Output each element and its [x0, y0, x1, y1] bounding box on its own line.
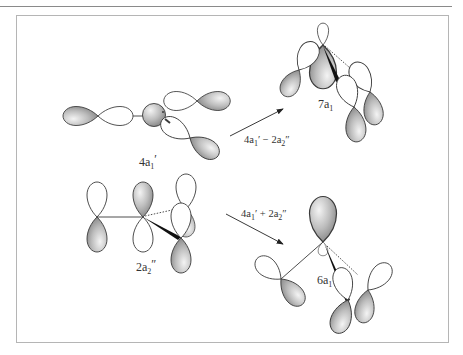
structure-7a1	[276, 23, 385, 143]
structure-4a1-prime	[63, 92, 230, 164]
label-6a1: 6a1	[317, 273, 332, 289]
label-7a1: 7a1	[318, 97, 333, 113]
orbital-diagram: 4a1′ 4a1′ − 2a2″ 7a1	[0, 0, 463, 355]
label-arrow-minus: 4a1′ − 2a2″	[244, 134, 290, 148]
label-arrow-plus: 4a1′ + 2a2″	[241, 208, 287, 222]
arrow-minus	[230, 109, 283, 136]
structure-2a2-double-prime	[87, 174, 196, 273]
label-4a1-prime: 4a1′	[139, 152, 157, 171]
label-2a2-double-prime: 2a2″	[136, 257, 156, 276]
